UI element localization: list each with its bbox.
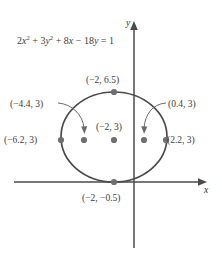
equation-op-3: −: [73, 35, 84, 46]
label-right-vertex: (2.2, 3): [167, 136, 195, 146]
left-focus-leader-arrowhead: [81, 126, 87, 134]
conic-equation: 2x2 + 3y2 + 8x − 18y = 1: [17, 36, 114, 46]
point-center: [111, 137, 117, 143]
equation-coef-4: 18: [84, 35, 94, 46]
x-axis-label: x: [204, 186, 208, 196]
point-top-vertex: [111, 89, 117, 95]
right-focus-leader-line: [144, 103, 166, 128]
y-axis-arrowhead: [130, 21, 138, 30]
label-center: (−2, 3): [96, 123, 122, 133]
label-left-vertex: (−6.2, 3): [4, 136, 37, 146]
point-left-vertex: [58, 137, 64, 143]
equation-op-1: +: [30, 35, 41, 46]
label-top-vertex: (−2, 6.5): [86, 76, 119, 86]
ellipse-graph-figure: 2x2 + 3y2 + 8x − 18y = 1 (−2, 6.5) (−2, …: [0, 0, 221, 261]
point-left-focus: [81, 137, 87, 143]
left-focus-leader-line: [58, 103, 84, 128]
equation-op-2: +: [53, 35, 64, 46]
equation-equals: =: [98, 35, 109, 46]
label-left-focus: (−4.4, 3): [10, 100, 43, 110]
point-bottom-vertex: [111, 179, 117, 185]
y-axis: [130, 21, 138, 248]
label-bottom-vertex: (−2, −0.5): [82, 194, 120, 204]
y-axis-label: y: [126, 19, 130, 29]
equation-rhs: 1: [109, 35, 114, 46]
point-right-focus: [141, 137, 147, 143]
label-right-focus: (0.4, 3): [168, 100, 196, 110]
right-focus-leader-arrowhead: [141, 126, 147, 134]
